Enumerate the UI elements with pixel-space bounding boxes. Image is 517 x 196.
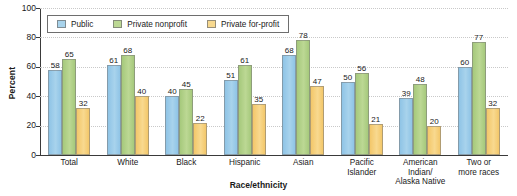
- bar-nonprofit: 65: [62, 59, 76, 155]
- bar-value-label: 68: [123, 46, 132, 55]
- bar-value-label: 68: [285, 46, 294, 55]
- bar-public: 60: [458, 67, 472, 155]
- bar-value-label: 50: [343, 73, 352, 82]
- x-axis-line: [40, 155, 508, 156]
- bar-public: 50: [341, 82, 355, 156]
- bar-nonprofit: 56: [355, 73, 369, 155]
- public-swatch-icon: [57, 20, 66, 28]
- bar-value-label: 77: [474, 33, 483, 42]
- bar-value-label: 61: [240, 56, 249, 65]
- bar-value-label: 47: [313, 77, 322, 86]
- bar-value-label: 21: [371, 115, 380, 124]
- bar-forprofit: 22: [193, 123, 207, 155]
- x-axis-category-line: Two or: [444, 158, 515, 168]
- bar-value-label: 48: [416, 75, 425, 84]
- y-axis-title: Percent: [7, 48, 17, 118]
- bar-value-label: 32: [79, 99, 88, 108]
- x-axis-category-label: Two ormore races: [444, 158, 515, 177]
- legend-item-nonprofit[interactable]: Private nonprofit: [113, 20, 187, 29]
- legend-item-forprofit[interactable]: Private for-profit: [207, 20, 279, 29]
- bar-nonprofit: 61: [238, 65, 252, 155]
- bar-value-label: 60: [460, 58, 469, 67]
- x-axis-category-line: Alaska Native: [385, 177, 456, 187]
- bar-value-label: 58: [51, 61, 60, 70]
- y-axis-tick-label: 80: [0, 32, 36, 42]
- bar-group-bars: 607732: [450, 8, 509, 155]
- legend-item-public[interactable]: Public: [57, 20, 93, 29]
- y-axis-tick-label: 20: [0, 120, 36, 130]
- bar-nonprofit: 45: [179, 89, 193, 155]
- bar-value-label: 56: [357, 64, 366, 73]
- legend-item-label: Private nonprofit: [127, 20, 187, 29]
- bar-forprofit: 21: [369, 124, 383, 155]
- bar-group-bars: 505621: [333, 8, 392, 155]
- bar-value-label: 45: [182, 80, 191, 89]
- y-axis-tick-label: 60: [0, 61, 36, 71]
- bar-group: 394820: [391, 8, 450, 155]
- bar-forprofit: 32: [76, 108, 90, 155]
- bar-value-label: 40: [137, 87, 146, 96]
- bar-public: 39: [399, 98, 413, 155]
- nonprofit-swatch-icon: [113, 20, 122, 28]
- bar-value-label: 61: [109, 56, 118, 65]
- chart-legend: PublicPrivate nonprofitPrivate for-profi…: [47, 15, 289, 33]
- bar-public: 68: [282, 55, 296, 155]
- bar-nonprofit: 48: [413, 84, 427, 155]
- bar-value-label: 40: [168, 87, 177, 96]
- bar-value-label: 65: [65, 50, 74, 59]
- bar-forprofit: 32: [486, 108, 500, 155]
- bar-chart: Percent 100806040200 5865326168404045225…: [0, 0, 517, 196]
- bar-group: 607732: [450, 8, 509, 155]
- legend-item-label: Private for-profit: [221, 20, 279, 29]
- bar-value-label: 78: [299, 31, 308, 40]
- x-axis-category-line: more races: [444, 168, 515, 178]
- bar-forprofit: 47: [310, 86, 324, 155]
- bar-forprofit: 40: [135, 96, 149, 155]
- bar-group-bars: 394820: [391, 8, 450, 155]
- y-axis-tick-label: 0: [0, 150, 36, 160]
- bar-value-label: 51: [226, 71, 235, 80]
- bar-value-label: 20: [430, 117, 439, 126]
- bar-forprofit: 20: [427, 126, 441, 155]
- bar-public: 40: [165, 96, 179, 155]
- y-axis-tick-label: 40: [0, 91, 36, 101]
- bar-value-label: 35: [254, 95, 263, 104]
- bar-nonprofit: 78: [296, 40, 310, 155]
- bar-value-label: 32: [488, 99, 497, 108]
- y-axis-tick-label: 100: [0, 3, 36, 13]
- bar-forprofit: 35: [252, 104, 266, 155]
- forprofit-swatch-icon: [207, 20, 216, 28]
- bar-value-label: 22: [196, 114, 205, 123]
- bar-public: 58: [48, 70, 62, 155]
- bar-public: 61: [107, 65, 121, 155]
- bar-nonprofit: 77: [472, 42, 486, 155]
- legend-item-label: Public: [71, 20, 93, 29]
- bar-nonprofit: 68: [121, 55, 135, 155]
- bar-public: 51: [224, 80, 238, 155]
- bar-value-label: 39: [402, 89, 411, 98]
- bar-group: 505621: [333, 8, 392, 155]
